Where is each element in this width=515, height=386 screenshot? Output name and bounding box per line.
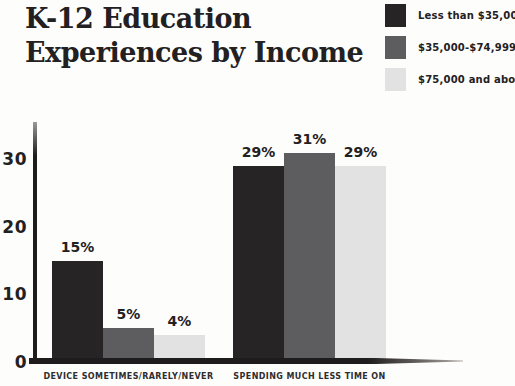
plot-area: 010203015%5%4%DEVICE SOMETIMES/RARELY/NE…: [0, 0, 515, 386]
y-axis-tick-label: 20: [0, 217, 27, 238]
category-label: SPENDING MUCH LESS TIME ON: [185, 372, 435, 382]
bar: [103, 328, 154, 362]
y-axis-line: [33, 122, 37, 362]
y-axis-tick-label: 10: [0, 284, 27, 305]
bar-value-label: 29%: [323, 144, 398, 161]
bar: [335, 166, 386, 362]
bar-chart: K-12 EducationExperiences by Income Less…: [0, 0, 515, 386]
bar: [154, 335, 205, 362]
x-axis-line: [29, 358, 463, 364]
y-axis-tick-label: 30: [0, 149, 27, 170]
bar-value-label: 4%: [142, 313, 217, 330]
bar: [284, 153, 335, 362]
bar-value-label: 15%: [40, 239, 115, 256]
y-axis-tick-label: 0: [0, 352, 27, 373]
bar: [233, 166, 284, 362]
